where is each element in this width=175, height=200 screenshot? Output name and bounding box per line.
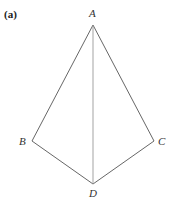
kite-diagram: A B C D [0, 0, 175, 200]
vertex-label-a: A [88, 7, 96, 19]
edge-bd [32, 141, 93, 184]
edge-ab [32, 25, 93, 141]
vertex-label-b: B [19, 135, 26, 147]
edge-cd [93, 141, 154, 184]
vertex-label-d: D [88, 187, 97, 199]
edge-ac [93, 25, 154, 141]
vertex-label-c: C [158, 135, 166, 147]
